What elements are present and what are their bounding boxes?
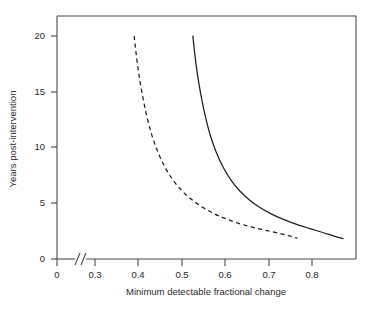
plot-frame [57, 16, 356, 259]
x-axis-break-icon [75, 253, 86, 265]
x-tick-label-0-8: 0.8 [305, 269, 318, 280]
x-axis-title: Minimum detectable fractional change [126, 286, 286, 297]
y-tick-label-0: 0 [40, 253, 45, 264]
x-tick-label-0-3: 0.3 [88, 269, 101, 280]
series-line-solid [193, 36, 343, 239]
y-tick-label-20: 20 [34, 30, 45, 41]
x-tick-label-0-5: 0.5 [175, 269, 188, 280]
y-tick-marks [51, 36, 57, 259]
x-tick-marks [57, 259, 312, 266]
series-line-dashed [134, 36, 297, 238]
y-axis-title: Years post-intervention [7, 91, 18, 188]
y-tick-label-10: 10 [34, 141, 45, 152]
line-chart: 0 5 10 15 20 0 0.3 0.4 0.5 0.6 0.7 0.8 M… [0, 0, 372, 311]
y-tick-label-15: 15 [34, 86, 45, 97]
x-tick-label-0: 0 [54, 269, 59, 280]
chart-figure: 0 5 10 15 20 0 0.3 0.4 0.5 0.6 0.7 0.8 M… [0, 0, 372, 311]
y-tick-label-5: 5 [40, 197, 45, 208]
x-tick-label-0-6: 0.6 [218, 269, 231, 280]
x-tick-label-0-7: 0.7 [262, 269, 275, 280]
x-tick-label-0-4: 0.4 [131, 269, 144, 280]
